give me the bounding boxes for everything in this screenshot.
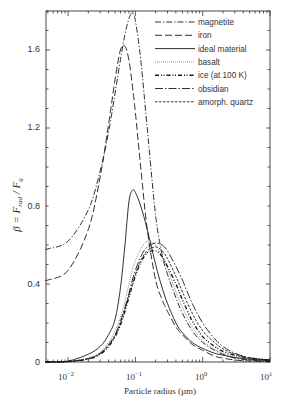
y-tick-label-1.2: 1.2: [27, 122, 40, 132]
data-curves: [46, 13, 270, 362]
legend-item: ice (at 100 K): [155, 71, 247, 80]
axis-ticks: [46, 11, 270, 362]
y-tick-label-0.4: 0.4: [27, 279, 40, 289]
plot-frame: [46, 11, 270, 362]
legend-label: iron: [198, 31, 212, 40]
legend-label: basalt: [198, 58, 221, 67]
curve-iron: [46, 45, 270, 361]
legend-item: amorph. quartz: [155, 98, 253, 107]
legend: magnetiteironideal materialbasaltice (at…: [155, 18, 253, 107]
legend-label: obsidian: [198, 85, 229, 94]
curve-obsidian: [46, 243, 270, 362]
legend-item: obsidian: [155, 85, 229, 94]
y-tick-label-0: 0: [35, 357, 40, 367]
legend-label: amorph. quartz: [198, 98, 253, 107]
x-tick-label-1e-1: 10−1: [126, 370, 142, 382]
y-tick-labels: 0 0.4 0.8 1.2 1.6: [27, 44, 40, 367]
curve-amorph-quartz: [46, 247, 270, 362]
legend-label: magnetite: [198, 18, 234, 27]
curve-basalt: [46, 241, 270, 362]
curve-magnetite: [46, 13, 270, 361]
plot-border: [46, 11, 270, 362]
legend-item: basalt: [155, 58, 221, 67]
x-tick-label-1e-2: 10−2: [58, 370, 74, 382]
chart-canvas: 0 0.4 0.8 1.2 1.6 10−2 10−1 100 101 Part…: [0, 0, 286, 404]
x-tick-label-1e1: 101: [260, 370, 272, 382]
legend-label: ideal material: [198, 45, 247, 54]
legend-item: iron: [155, 31, 212, 40]
y-tick-label-0.8: 0.8: [27, 201, 40, 211]
y-tick-label-1.6: 1.6: [27, 44, 40, 54]
x-tick-labels: 10−2 10−1 100 101: [58, 370, 272, 382]
curve-ice-at-100-k-: [46, 251, 270, 362]
legend-item: magnetite: [155, 18, 234, 27]
curve-ideal-material: [46, 190, 270, 362]
x-tick-label-1e0: 100: [195, 370, 207, 382]
legend-label: ice (at 100 K): [198, 71, 247, 80]
y-axis-label: β = Frad / Fg: [10, 178, 24, 233]
x-axis-label: Particle radius (µm): [124, 386, 196, 396]
legend-item: ideal material: [155, 45, 247, 54]
